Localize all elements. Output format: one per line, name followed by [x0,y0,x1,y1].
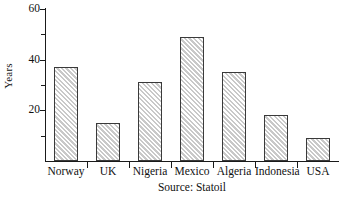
plot-area [45,9,339,161]
y-major-tick-20 [40,110,45,111]
y-minor-tick-10 [41,136,45,137]
bar-norway [54,67,78,161]
y-major-tick-40 [40,60,45,61]
y-axis-line [45,8,46,162]
bar-uk [96,123,120,161]
y-major-tick-60 [40,9,45,10]
y-tick-label-60: 60 [16,3,40,15]
x-tick-label-indonesia: Indonesia [255,164,297,179]
x-tick-label-uk: UK [87,164,129,179]
y-minor-tick-30 [41,85,45,86]
x-tick-label-algeria: Algeria [213,164,255,179]
source-caption: Source: Statoil [45,181,339,193]
y-tick-label-40: 40 [16,54,40,66]
bar-nigeria [138,82,162,161]
x-axis-category-labels: NorwayUKNigeriaMexicoAlgeriaIndonesiaUSA [45,164,339,181]
x-tick-label-usa: USA [297,164,339,179]
bar-algeria [222,72,246,161]
bar-indonesia [264,115,288,161]
y-tick-label-20: 20 [16,104,40,116]
y-axis-label: Years [2,46,14,106]
x-axis-line [45,161,339,162]
x-tick-label-norway: Norway [45,164,87,179]
x-tick-label-mexico: Mexico [171,164,213,179]
bar-usa [306,138,330,161]
bar-mexico [180,37,204,161]
x-tick-label-nigeria: Nigeria [129,164,171,179]
bar-chart: Years 204060 NorwayUKNigeriaMexicoAlgeri… [0,0,347,207]
y-minor-tick-50 [41,34,45,35]
